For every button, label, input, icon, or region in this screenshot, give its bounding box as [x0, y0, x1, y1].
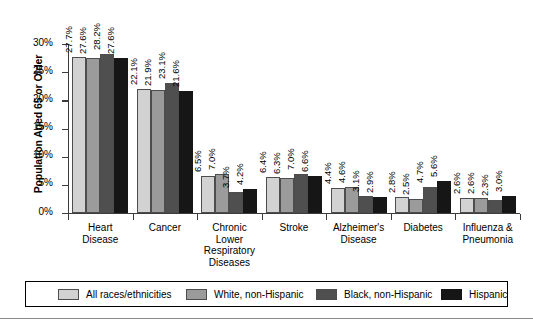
bar[interactable]: [165, 83, 179, 213]
bar-value-label: 2.3%: [479, 174, 490, 196]
bar-group: 22.1%21.9%23.1%21.6%: [137, 44, 193, 213]
bar-value-label: 6.4%: [257, 151, 268, 173]
bar[interactable]: [423, 187, 437, 213]
bar-value-label: 4.7%: [414, 161, 425, 183]
x-axis-category-label: Chronic Lower Respiratory Diseases: [197, 222, 262, 268]
x-axis-category-label: Cancer: [133, 222, 198, 234]
bar-group: 27.7%27.6%28.2%27.6%: [72, 44, 128, 213]
chart-legend: All races/ethnicitiesWhite, non-Hispanic…: [25, 281, 508, 307]
bar-value-label: 21.6%: [170, 60, 181, 87]
bar[interactable]: [266, 177, 280, 213]
x-axis-tick: [455, 214, 456, 220]
legend-label: White, non-Hispanic: [214, 289, 303, 300]
bar[interactable]: [243, 189, 257, 213]
bar-value-label: 21.9%: [142, 59, 153, 86]
bar[interactable]: [409, 199, 423, 213]
bar-group: 2.6%2.6%2.3%3.0%: [460, 44, 516, 213]
bar[interactable]: [308, 176, 322, 213]
bar-value-label: 4.6%: [336, 161, 347, 183]
bar[interactable]: [437, 181, 451, 213]
x-axis-tick: [391, 214, 392, 220]
bar-value-label: 2.8%: [386, 172, 397, 194]
bar[interactable]: [201, 176, 215, 213]
legend-label: Hispanic: [469, 289, 507, 300]
bar[interactable]: [86, 58, 100, 213]
bar[interactable]: [114, 58, 128, 213]
bar-value-label: 4.4%: [322, 163, 333, 185]
y-axis-tick-label: 5%: [39, 177, 53, 188]
y-axis-tick-label: 30%: [33, 37, 53, 48]
bar[interactable]: [137, 89, 151, 213]
y-axis-tick: 10%: [62, 157, 68, 158]
bar-value-label: 2.6%: [465, 173, 476, 195]
legend-color-swatch: [58, 289, 79, 300]
y-axis-tick-label: 15%: [33, 121, 53, 132]
legend-label: Black, non-Hispanic: [344, 289, 432, 300]
x-axis-tick: [326, 214, 327, 220]
bar[interactable]: [229, 192, 243, 213]
bar-value-label: 27.6%: [77, 27, 88, 54]
bar-group: 6.4%6.3%7.0%6.6%: [266, 44, 322, 213]
bar-group: 4.4%4.6%3.1%2.9%: [331, 44, 387, 213]
x-axis-category-label: Diabetes: [391, 222, 456, 234]
bar-value-label: 3.7%: [220, 167, 231, 189]
bar-value-label: 4.2%: [234, 164, 245, 186]
bar-value-label: 23.1%: [156, 52, 167, 79]
y-axis-tick: 5%: [62, 185, 68, 186]
bar-value-label: 2.9%: [364, 171, 375, 193]
legend-item[interactable]: All races/ethnicities: [58, 289, 172, 300]
y-axis-tick-label: 25%: [33, 65, 53, 76]
bar-group: 6.5%7.0%3.7%4.2%: [201, 44, 257, 213]
bar[interactable]: [502, 196, 516, 213]
bar-chart-figure: Population Aged 65 or Older 0%5%10%15%20…: [0, 0, 533, 327]
bar[interactable]: [151, 90, 165, 213]
plot-area: 0%5%10%15%20%25%30% 27.7%27.6%28.2%27.6%…: [68, 44, 520, 214]
bar-value-label: 28.2%: [91, 23, 102, 50]
x-axis-line: [68, 213, 520, 214]
y-axis-tick-label: 0%: [39, 206, 53, 217]
x-axis-tick: [68, 214, 69, 220]
bar[interactable]: [331, 188, 345, 213]
footer-divider: [0, 318, 533, 319]
legend-item[interactable]: Hispanic: [441, 289, 507, 300]
y-axis-tick: 20%: [62, 100, 68, 101]
bar[interactable]: [488, 200, 502, 213]
bar-value-label: 7.0%: [206, 148, 217, 170]
y-axis-tick: 25%: [62, 72, 68, 73]
bar-value-label: 27.6%: [105, 27, 116, 54]
legend-color-swatch: [441, 289, 462, 300]
x-axis-tick: [520, 214, 521, 220]
bar[interactable]: [100, 54, 114, 213]
bar-value-label: 27.7%: [63, 26, 74, 53]
bar[interactable]: [373, 197, 387, 213]
y-axis-tick: 15%: [62, 129, 68, 130]
bar[interactable]: [474, 198, 488, 213]
x-axis-tick: [133, 214, 134, 220]
bar[interactable]: [294, 174, 308, 213]
bar[interactable]: [280, 178, 294, 213]
legend-label: All races/ethnicities: [86, 289, 172, 300]
x-axis-tick: [197, 214, 198, 220]
x-axis-tick: [262, 214, 263, 220]
bar[interactable]: [179, 91, 193, 213]
legend-color-swatch: [186, 289, 207, 300]
legend-item[interactable]: White, non-Hispanic: [186, 289, 303, 300]
bar-value-label: 22.1%: [128, 58, 139, 85]
bar-value-label: 6.5%: [192, 151, 203, 173]
x-axis-category-label: Alzheimer's Disease: [326, 222, 391, 245]
bar[interactable]: [460, 198, 474, 213]
legend-color-swatch: [316, 289, 337, 300]
x-axis-category-label: Stroke: [262, 222, 327, 234]
x-axis-category-label: Heart Disease: [68, 222, 133, 245]
x-axis-category-label: Influenza & Pneumonia: [455, 222, 520, 245]
bar-value-label: 6.3%: [271, 152, 282, 174]
bar[interactable]: [359, 196, 373, 213]
y-axis-line: [68, 44, 69, 214]
bar[interactable]: [395, 197, 409, 213]
bar[interactable]: [72, 57, 86, 213]
bar-value-label: 5.6%: [428, 156, 439, 178]
legend-item[interactable]: Black, non-Hispanic: [316, 289, 432, 300]
bar-value-label: 2.6%: [451, 173, 462, 195]
y-axis-tick-label: 20%: [33, 93, 53, 104]
bar-value-label: 2.5%: [400, 173, 411, 195]
